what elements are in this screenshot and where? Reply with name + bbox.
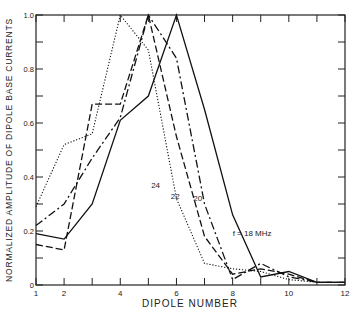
series-annotation: f = 18 MHz (233, 229, 272, 238)
axes: 12468101200.20.40.60.81.0 (24, 11, 350, 298)
y-axis-label: NORMALIZED AMPLITUDE OF DIPOLE BASE CURR… (4, 18, 14, 282)
x-tick-label: 1 (34, 289, 39, 298)
x-tick-label: 8 (230, 289, 235, 298)
x-axis-label: DIPOLE NUMBER (142, 298, 238, 309)
series-line-22 (36, 15, 345, 282)
annotations: 242220f = 18 MHz (151, 181, 271, 239)
y-tick-label: 0.6 (24, 119, 34, 128)
y-tick-label: 0.8 (24, 65, 34, 74)
series-annotation: 20 (193, 194, 202, 203)
plot-frame (36, 15, 345, 285)
series-line-24 (36, 15, 345, 282)
series-line-18 (36, 15, 345, 282)
x-tick-label: 2 (62, 289, 67, 298)
line-chart: 12468101200.20.40.60.81.0 242220f = 18 M… (0, 0, 355, 315)
y-tick-label: 0.4 (24, 173, 34, 182)
y-tick-label: 1.0 (24, 11, 34, 20)
x-tick-label: 6 (174, 289, 179, 298)
x-tick-label: 4 (118, 289, 123, 298)
y-tick-label: 0.2 (24, 227, 34, 236)
y-tick-label: 0 (30, 281, 34, 290)
series-line-20 (36, 15, 345, 282)
series-annotation: 22 (171, 192, 180, 201)
series-lines (36, 15, 345, 282)
x-tick-label: 10 (284, 289, 293, 298)
x-tick-label: 12 (341, 289, 350, 298)
series-annotation: 24 (151, 181, 160, 190)
